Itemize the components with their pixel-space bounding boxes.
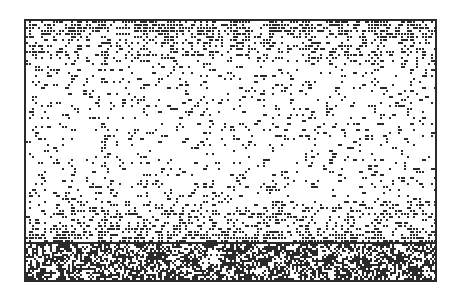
dense-texture-band: [26, 244, 435, 280]
texture-frame: [24, 19, 437, 282]
dither-dot-panel: [26, 21, 435, 242]
